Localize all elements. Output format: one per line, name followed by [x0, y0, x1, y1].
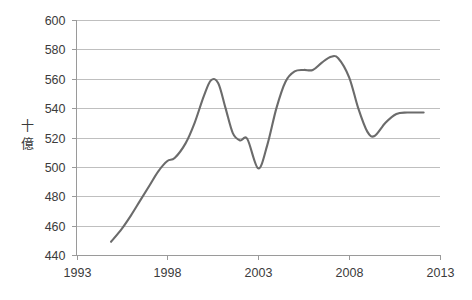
y-tick-label: 480	[45, 190, 66, 204]
y-tick-label: 500	[45, 161, 66, 175]
y-axis-title-char-2: 億	[21, 136, 34, 151]
y-tick-label: 520	[45, 132, 66, 146]
y-tick-label: 580	[45, 43, 66, 57]
line-chart: 440460480500520540560580600 199319982003…	[0, 0, 472, 300]
y-tick-marks	[72, 21, 77, 256]
y-tick-label: 460	[45, 220, 66, 234]
x-axis	[77, 255, 441, 260]
x-axis-tick-labels: 19931998200320082013	[64, 266, 455, 280]
y-axis-title: 十 億	[21, 118, 34, 151]
x-tick-label: 2013	[427, 266, 455, 280]
y-tick-label: 560	[45, 73, 66, 87]
data-series-line	[111, 56, 424, 242]
x-tick-label: 2008	[336, 266, 364, 280]
y-axis-tick-labels: 440460480500520540560580600	[45, 14, 66, 263]
y-axis-title-char-1: 十	[21, 118, 34, 133]
x-tick-label: 2003	[245, 266, 273, 280]
y-tick-label: 440	[45, 249, 66, 263]
x-tick-label: 1993	[64, 266, 92, 280]
y-tick-label: 600	[45, 14, 66, 28]
chart-canvas: 440460480500520540560580600 199319982003…	[0, 0, 472, 300]
y-tick-label: 540	[45, 102, 66, 116]
x-tick-label: 1998	[154, 266, 182, 280]
y-axis	[72, 20, 77, 256]
